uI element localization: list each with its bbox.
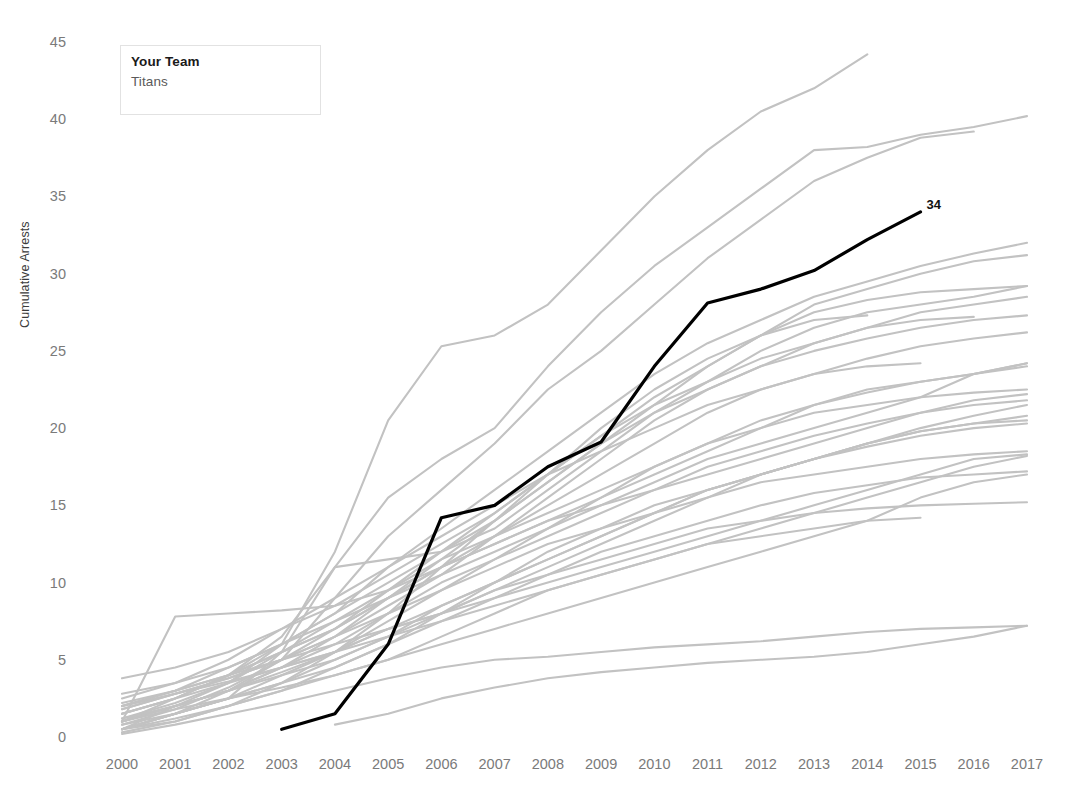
x-axis-tick-2005: 2005 <box>358 757 418 771</box>
x-axis-tick-2001: 2001 <box>145 757 205 771</box>
legend-box: Your Team Titans <box>120 45 321 115</box>
y-axis-tick-5: 5 <box>20 653 66 667</box>
x-axis-tick-2002: 2002 <box>198 757 258 771</box>
x-axis-tick-2003: 2003 <box>252 757 312 771</box>
context-line-team-31 <box>122 297 1027 709</box>
context-line-team-01 <box>122 54 867 721</box>
x-axis-tick-2012: 2012 <box>731 757 791 771</box>
x-axis-tick-2013: 2013 <box>784 757 844 771</box>
y-axis-tick-10: 10 <box>20 576 66 590</box>
y-axis-tick-20: 20 <box>20 421 66 435</box>
x-axis-tick-2008: 2008 <box>518 757 578 771</box>
x-axis-tick-2015: 2015 <box>891 757 951 771</box>
x-axis-tick-2014: 2014 <box>837 757 897 771</box>
x-axis-tick-2010: 2010 <box>624 757 684 771</box>
y-axis-tick-35: 35 <box>20 189 66 203</box>
x-axis-tick-2007: 2007 <box>465 757 525 771</box>
legend-entry-titans: Titans <box>131 74 168 89</box>
chart-plot-area <box>0 0 1065 792</box>
context-line-team-03 <box>122 132 974 730</box>
x-axis-tick-2000: 2000 <box>92 757 152 771</box>
y-axis-tick-15: 15 <box>20 498 66 512</box>
legend-title: Your Team <box>131 54 200 69</box>
y-axis-tick-30: 30 <box>20 267 66 281</box>
x-axis-tick-2017: 2017 <box>997 757 1057 771</box>
context-line-team-24 <box>122 363 1027 694</box>
y-axis-tick-40: 40 <box>20 112 66 126</box>
y-axis-tick-25: 25 <box>20 344 66 358</box>
x-axis-tick-2016: 2016 <box>944 757 1004 771</box>
context-line-team-02 <box>122 116 1027 714</box>
x-axis-tick-2004: 2004 <box>305 757 365 771</box>
highlight-endpoint-label: 34 <box>927 198 941 211</box>
y-axis-title: Cumulative Arrests <box>18 128 32 328</box>
x-axis-tick-2009: 2009 <box>571 757 631 771</box>
y-axis-tick-0: 0 <box>20 730 66 744</box>
cumulative-arrests-chart: Cumulative Arrests 051015202530354045 20… <box>0 0 1065 792</box>
context-line-team-30 <box>335 626 1027 725</box>
x-axis-tick-2006: 2006 <box>411 757 471 771</box>
context-line-team-19 <box>122 474 1027 721</box>
context-line-team-04 <box>122 243 1027 706</box>
x-axis-tick-2011: 2011 <box>678 757 738 771</box>
y-axis-tick-45: 45 <box>20 35 66 49</box>
context-line-team-17 <box>122 518 921 730</box>
